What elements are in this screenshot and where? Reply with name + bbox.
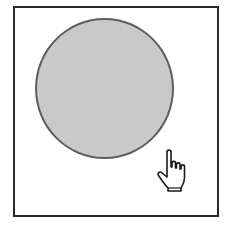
circle-shape[interactable] bbox=[35, 18, 174, 159]
hand-pointer-icon bbox=[156, 148, 196, 194]
